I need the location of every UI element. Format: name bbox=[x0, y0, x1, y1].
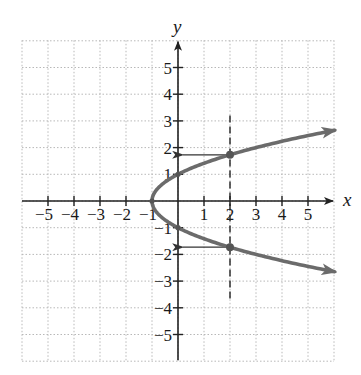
x-tick-label: −4 bbox=[61, 205, 80, 224]
marked-point bbox=[175, 225, 180, 230]
y-tick-label: −5 bbox=[154, 326, 172, 345]
marked-point bbox=[226, 243, 234, 251]
parabola-upper-branch bbox=[152, 130, 335, 201]
y-axis-label: y bbox=[171, 16, 182, 37]
y-tick-label: −2 bbox=[154, 245, 172, 264]
x-tick-label: 1 bbox=[200, 205, 209, 224]
x-tick-label: 3 bbox=[252, 205, 261, 224]
y-tick-label: 4 bbox=[164, 85, 173, 104]
marked-point bbox=[226, 151, 234, 159]
x-tick-label: −3 bbox=[87, 205, 105, 224]
y-tick-label: 3 bbox=[164, 112, 173, 131]
x-tick-label: 4 bbox=[278, 205, 287, 224]
x-tick-label: −2 bbox=[113, 205, 131, 224]
x-tick-label: 5 bbox=[304, 205, 313, 224]
marked-point bbox=[149, 198, 154, 203]
axes bbox=[22, 42, 333, 360]
x-tick-label: −5 bbox=[35, 205, 53, 224]
y-tick-label: −4 bbox=[154, 299, 173, 318]
y-tick-label: 2 bbox=[164, 139, 173, 158]
marked-point bbox=[175, 172, 180, 177]
y-tick-label: 5 bbox=[164, 59, 173, 78]
y-tick-label: −3 bbox=[154, 272, 172, 291]
x-axis-label: x bbox=[342, 189, 352, 210]
parabola-graph: −5−4−3−2−112345−5−4−3−2−112345 x y bbox=[0, 0, 361, 375]
